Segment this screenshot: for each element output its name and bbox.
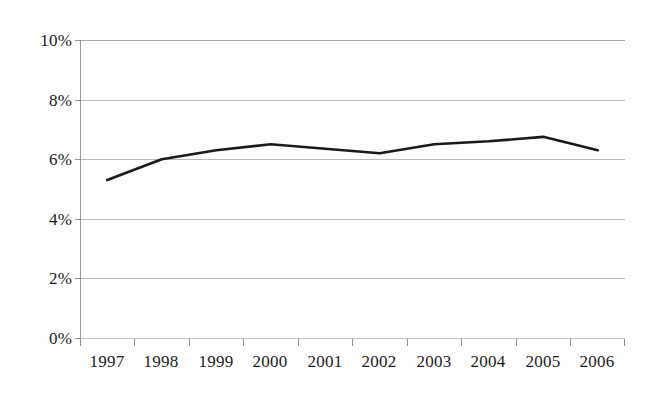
y-axis-labels: 10% 8% 6% 4% 2% 0%	[0, 0, 72, 397]
gridline-4-percent	[80, 219, 625, 220]
x-axis-label-2005: 2005	[514, 352, 572, 371]
x-axis-label-2003: 2003	[405, 352, 463, 371]
y-tick-mark-8	[75, 100, 81, 101]
x-tick-mark-6	[407, 339, 408, 346]
x-tick-mark-7	[461, 339, 462, 346]
x-axis-label-2002: 2002	[350, 352, 408, 371]
x-tick-mark-5	[352, 339, 353, 346]
x-axis-label-1998: 1998	[132, 352, 190, 371]
x-axis-label-2001: 2001	[296, 352, 354, 371]
gridline-2-percent	[80, 278, 625, 279]
x-tick-mark-4	[298, 339, 299, 346]
x-tick-mark-10	[624, 339, 625, 346]
gridline-6-percent	[80, 159, 625, 160]
y-axis-line	[80, 40, 81, 339]
x-tick-mark-2	[189, 339, 190, 346]
x-axis-label-2006: 2006	[568, 352, 626, 371]
y-tick-mark-6	[75, 159, 81, 160]
line-chart: 10% 8% 6% 4% 2% 0% 1997 1998 1999 2000 2…	[0, 0, 646, 397]
x-tick-mark-1	[134, 339, 135, 346]
y-axis-label-2: 2%	[10, 270, 72, 287]
x-tick-mark-9	[570, 339, 571, 346]
y-axis-label-4: 4%	[10, 211, 72, 228]
x-tick-mark-3	[243, 339, 244, 346]
x-tick-mark-8	[516, 339, 517, 346]
y-axis-label-8: 8%	[10, 92, 72, 109]
x-axis-label-2004: 2004	[459, 352, 517, 371]
x-axis-label-1999: 1999	[187, 352, 245, 371]
y-tick-mark-10	[75, 40, 81, 41]
y-axis-label-10: 10%	[10, 32, 72, 49]
plot-area	[80, 40, 625, 338]
y-axis-label-6: 6%	[10, 151, 72, 168]
gridline-8-percent	[80, 100, 625, 101]
gridline-10-percent	[80, 40, 625, 41]
x-axis-label-2000: 2000	[241, 352, 299, 371]
y-tick-mark-4	[75, 219, 81, 220]
x-tick-mark-0	[80, 339, 81, 346]
y-tick-mark-2	[75, 278, 81, 279]
x-axis-label-1997: 1997	[78, 352, 136, 371]
y-axis-label-0: 0%	[10, 330, 72, 347]
